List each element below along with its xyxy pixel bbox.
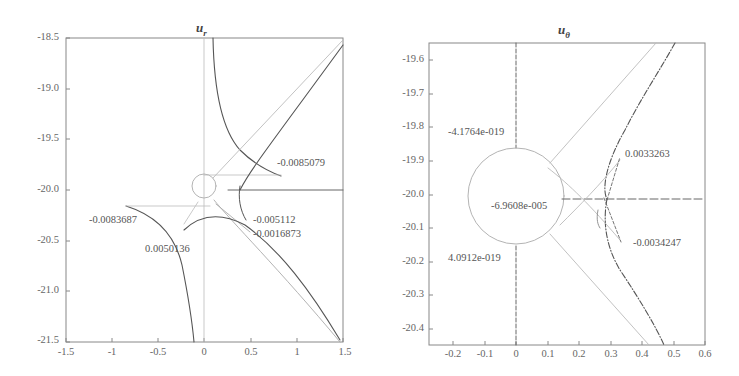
right-contour-label: -4.1764e-019 <box>448 126 504 137</box>
right-x-tick-label: 0.6 <box>685 348 725 359</box>
right-y-tick-label: -19.7 <box>378 87 424 98</box>
right-y-tick-label: -19.8 <box>378 120 424 131</box>
right-contour-label: 4.0912e-019 <box>448 252 501 263</box>
figure: ur <box>0 0 739 376</box>
right-x-tick-marks <box>453 341 705 345</box>
right-y-tick-label: -20.3 <box>378 288 424 299</box>
right-y-tick-marks <box>429 60 433 329</box>
right-y-tick-label: -19.6 <box>378 53 424 64</box>
right-plot-frame <box>429 43 705 345</box>
right-y-tick-label: -20.2 <box>378 255 424 266</box>
right-plot-area <box>0 0 739 376</box>
right-contour-label: 0.0033263 <box>625 148 670 159</box>
right-contour-label: -0.0034247 <box>633 237 681 248</box>
right-contours <box>468 43 705 345</box>
right-contour-label: -6.9608e-005 <box>491 200 547 211</box>
right-y-tick-label: -20.4 <box>378 322 424 333</box>
right-y-tick-label: -19.9 <box>378 154 424 165</box>
right-y-tick-label: -20.1 <box>378 221 424 232</box>
right-y-tick-label: -20.0 <box>378 188 424 199</box>
